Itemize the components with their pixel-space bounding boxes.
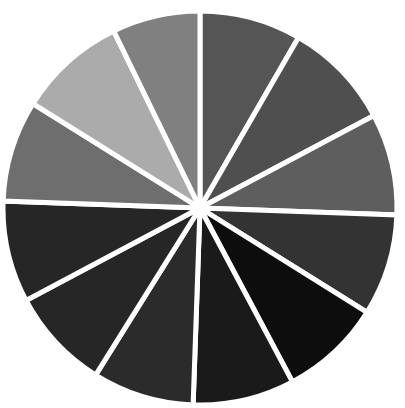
pie-chart-container (0, 0, 405, 408)
pie-chart-canvas (0, 0, 405, 408)
pie-slices-group (3, 11, 397, 405)
